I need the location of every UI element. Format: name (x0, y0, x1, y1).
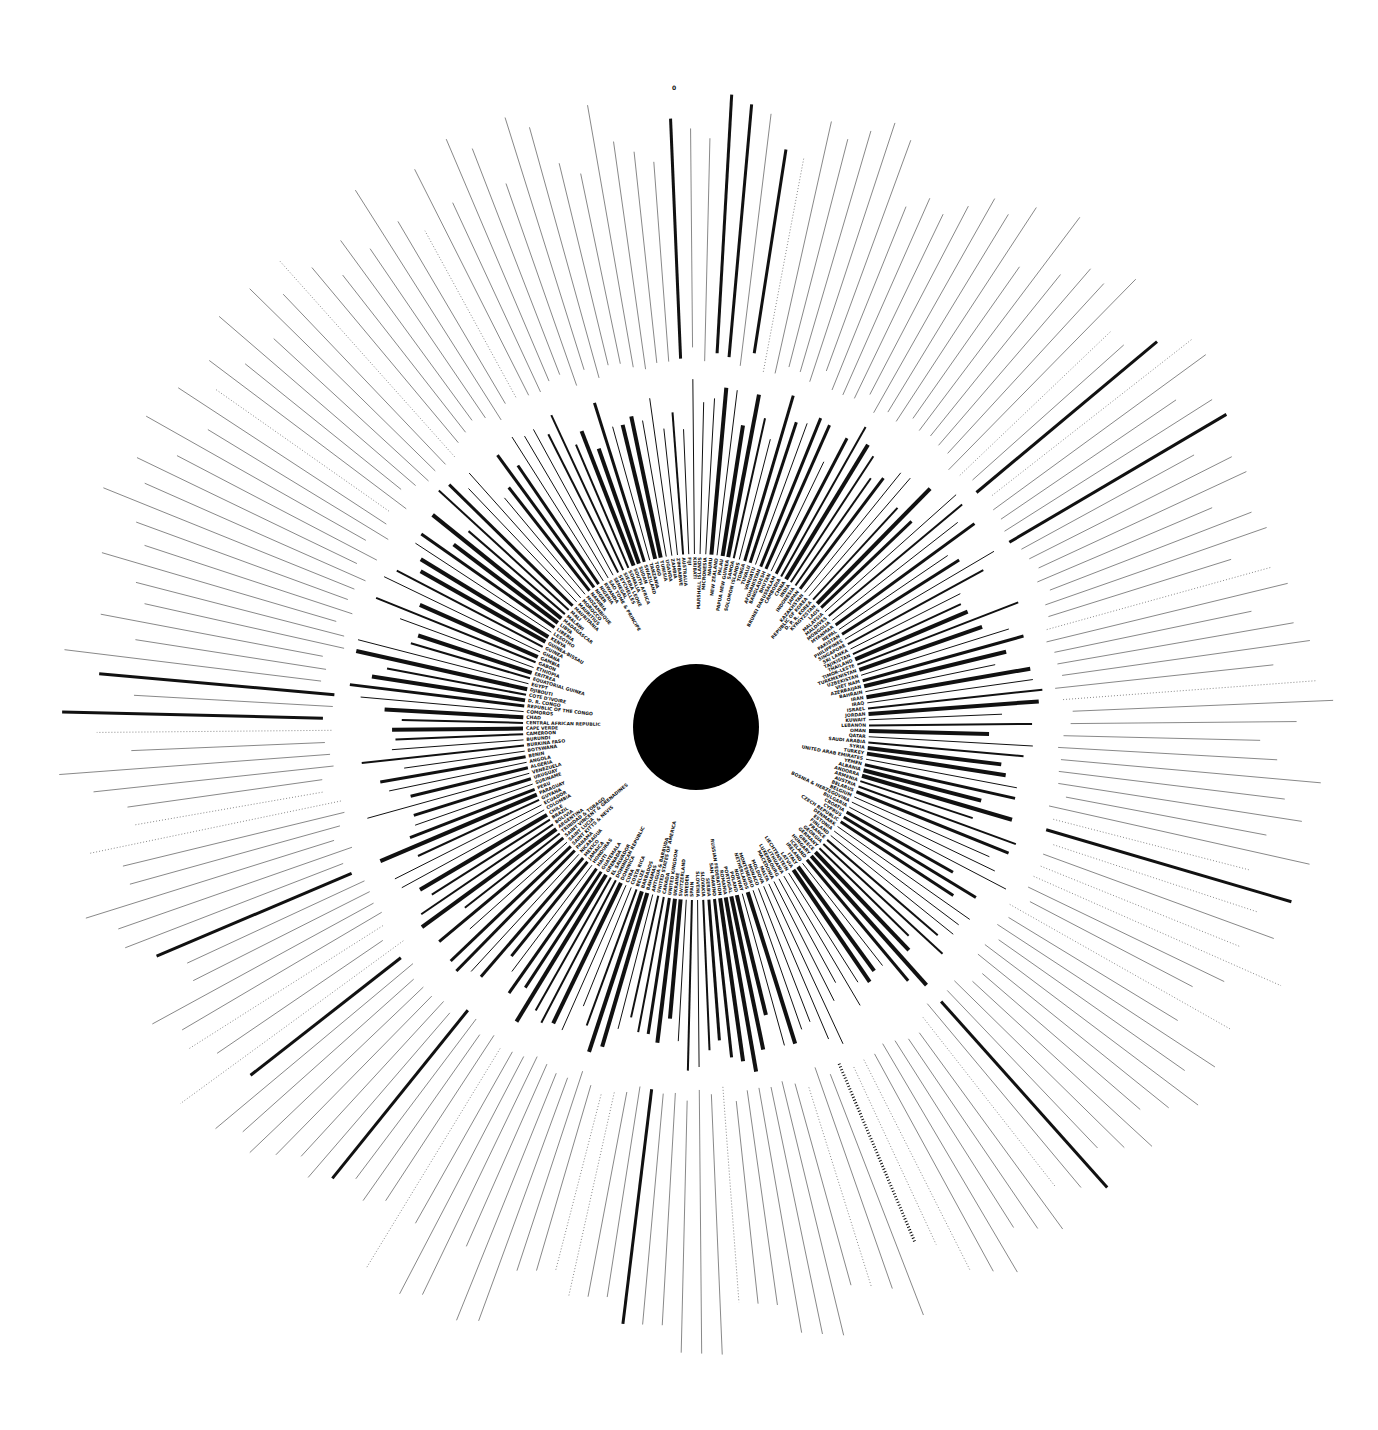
outer-spoke (913, 267, 1020, 419)
inner-bar (781, 427, 865, 576)
outer-spoke (923, 1017, 1056, 1187)
outer-spoke (919, 217, 1080, 430)
outer-spoke (843, 198, 930, 395)
inner-bar (688, 900, 692, 1071)
outer-spoke (283, 294, 445, 464)
outer-spoke (1058, 747, 1277, 759)
outer-spoke (130, 826, 340, 884)
inner-bar (864, 652, 1006, 686)
outer-spoke (506, 184, 577, 386)
outer-spoke (398, 221, 505, 403)
outer-spoke (1009, 917, 1178, 1020)
inner-bar (673, 412, 684, 554)
inner-bar (392, 729, 523, 730)
outer-spoke (614, 142, 646, 370)
outer-spoke (1030, 902, 1193, 987)
country-label: CAPE VERDE (526, 726, 558, 731)
outer-spoke (896, 207, 1036, 421)
country-label: SLOVENIA (695, 871, 700, 897)
outer-spoke (960, 331, 1111, 475)
outer-spoke (949, 279, 1136, 470)
outer-spoke (927, 1004, 1081, 1188)
outer-spoke (276, 996, 432, 1155)
outer-spoke (1028, 887, 1224, 982)
outer-spoke (875, 1054, 994, 1271)
outer-spoke (101, 614, 323, 656)
inner-bar (786, 445, 868, 580)
outer-spoke (94, 766, 334, 792)
outer-spoke (209, 360, 406, 508)
zero-label: 0 (672, 84, 676, 91)
outer-spoke (973, 345, 1124, 480)
outer-spoke (747, 1090, 777, 1305)
outer-spoke (729, 104, 752, 357)
inner-bar (411, 643, 530, 678)
inner-bar (769, 884, 843, 1044)
outer-spoke (982, 974, 1140, 1110)
outer-spoke (301, 1001, 443, 1156)
inner-bar (385, 709, 524, 717)
outer-spoke (280, 261, 455, 457)
outer-spoke (1045, 528, 1266, 605)
inner-bar (703, 900, 709, 1050)
outer-spoke (1049, 806, 1310, 864)
outer-spoke (992, 340, 1192, 496)
outer-spoke (559, 163, 608, 365)
outer-spoke (908, 1039, 1037, 1229)
outer-spoke (131, 743, 325, 751)
outer-spoke (536, 1085, 590, 1270)
outer-spoke (782, 1081, 844, 1335)
inner-bar (693, 379, 695, 554)
outer-spoke (400, 1056, 524, 1293)
outer-spoke (947, 990, 1097, 1148)
outer-spoke (883, 1044, 1018, 1272)
outer-spoke (985, 945, 1198, 1106)
outer-spoke (529, 127, 599, 378)
outer-spoke (1046, 830, 1291, 902)
outer-spoke (993, 355, 1206, 510)
inner-bar (684, 429, 689, 554)
center-dot (633, 664, 759, 790)
outer-spoke (740, 114, 771, 366)
outer-spoke (1039, 472, 1247, 568)
outer-spoke (839, 1064, 915, 1243)
outer-spoke (312, 268, 458, 443)
outer-spoke (588, 1092, 627, 1297)
outer-spoke (99, 674, 334, 695)
outer-spoke (453, 203, 541, 392)
outer-spoke (634, 152, 657, 363)
outer-spoke (308, 1013, 450, 1178)
outer-spoke (662, 1093, 675, 1325)
outer-spoke (62, 712, 323, 718)
outer-spoke (341, 240, 472, 420)
outer-spoke (59, 754, 330, 774)
outer-spoke (187, 881, 364, 963)
outer-spoke (370, 249, 485, 418)
outer-spoke (127, 780, 322, 807)
inner-bar (869, 724, 1032, 725)
outer-spoke (717, 95, 732, 354)
country-label: SAINT VINCENT & GRENADINES (564, 782, 629, 838)
outer-spoke (681, 1101, 687, 1353)
outer-spoke (711, 1094, 722, 1354)
outer-spoke (1054, 611, 1251, 652)
outer-spoke (999, 940, 1185, 1071)
outer-spoke (145, 483, 366, 581)
outer-spoke (978, 954, 1169, 1108)
outer-spoke (919, 1033, 1062, 1229)
outer-spoke (250, 289, 436, 471)
outer-spoke (830, 1074, 923, 1315)
outer-spoke (1010, 904, 1232, 1029)
outer-spoke (466, 1064, 547, 1246)
outer-spoke (136, 522, 348, 599)
outer-spoke (759, 1088, 802, 1333)
outer-spoke (736, 1101, 758, 1304)
outer-spoke (1055, 665, 1273, 688)
outer-spoke (699, 1090, 701, 1354)
inner-bar (518, 466, 599, 585)
inner-bar (698, 900, 700, 1067)
inner-bar (739, 439, 770, 559)
outer-spoke (219, 316, 415, 485)
outer-spoke (517, 1071, 583, 1270)
outer-spoke (930, 275, 1060, 436)
